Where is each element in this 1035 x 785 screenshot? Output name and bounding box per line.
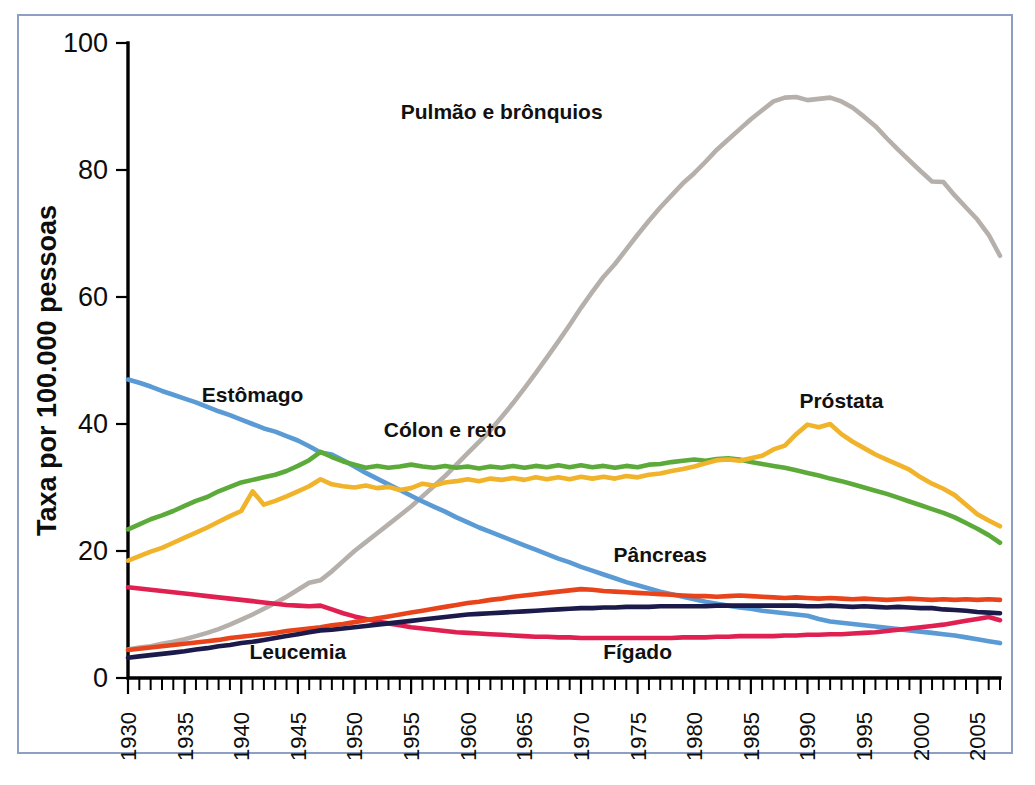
y-tick-label: 100 <box>63 28 108 58</box>
x-tick-label: 1960 <box>456 712 481 761</box>
series-line-pulm-o-e-br-nquios <box>128 97 1000 649</box>
series-label-p-ncreas: Pâncreas <box>614 543 707 566</box>
x-tick-label: 1955 <box>399 712 424 761</box>
series-label-f-gado: Fígado <box>603 640 672 663</box>
x-tick-label: 1975 <box>626 712 651 761</box>
series-label-pulm-o-e-br-nquios: Pulmão e brônquios <box>401 100 603 123</box>
series-label-pr-stata: Próstata <box>799 389 883 412</box>
x-tick-label: 1970 <box>569 712 594 761</box>
y-axis-ticks: 020406080100 <box>63 28 128 693</box>
series-label-c-lon-e-reto: Cólon e reto <box>384 418 507 441</box>
x-tick-label: 1930 <box>116 712 141 761</box>
data-lines <box>128 97 1000 658</box>
x-tick-label: 1990 <box>795 712 820 761</box>
y-tick-label: 20 <box>78 536 108 566</box>
chart-plot-area: 0204060801001930193519401945195019551960… <box>0 0 1035 785</box>
x-axis-ticks: 1930193519401945195019551960196519701975… <box>116 678 1000 761</box>
x-tick-label: 1940 <box>229 712 254 761</box>
x-tick-label: 1945 <box>286 712 311 761</box>
x-tick-label: 2005 <box>965 712 990 761</box>
series-labels: Pulmão e brônquiosEstômagoCólon e retoPr… <box>202 100 884 663</box>
figure-container: 0204060801001930193519401945195019551960… <box>0 0 1035 785</box>
x-tick-label: 1950 <box>342 712 367 761</box>
y-tick-label: 60 <box>78 282 108 312</box>
series-label-leucemia: Leucemia <box>249 640 346 663</box>
axes <box>128 43 1000 678</box>
series-label-est-mago: Estômago <box>202 383 304 406</box>
x-tick-label: 1995 <box>852 712 877 761</box>
y-tick-label: 0 <box>93 663 108 693</box>
x-tick-label: 1980 <box>682 712 707 761</box>
line-chart: 0204060801001930193519401945195019551960… <box>0 0 1035 785</box>
x-tick-label: 1985 <box>739 712 764 761</box>
x-tick-label: 1965 <box>512 712 537 761</box>
series-line-pr-stata <box>128 424 1000 561</box>
x-tick-label: 1935 <box>173 712 198 761</box>
y-tick-label: 40 <box>78 409 108 439</box>
x-tick-label: 2000 <box>909 712 934 761</box>
y-tick-label: 80 <box>78 155 108 185</box>
y-axis-title: Taxa por 100.000 pessoas <box>32 205 62 536</box>
